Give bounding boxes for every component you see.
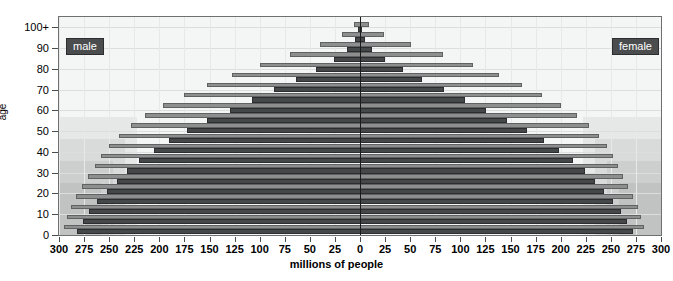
x-axis-tick (310, 237, 311, 242)
x-axis-tick-label: 125 (225, 243, 243, 255)
x-axis-tick-label: 200 (551, 243, 569, 255)
y-axis-tick (52, 173, 58, 174)
x-axis-tick (84, 237, 85, 242)
bar-dark (274, 87, 445, 92)
x-axis-tick-label: 50 (404, 243, 416, 255)
bar-dark (139, 158, 572, 163)
y-axis-tick (52, 152, 58, 153)
x-axis-tick-label: 25 (379, 243, 391, 255)
zero-axis-line (360, 17, 361, 235)
bar-dark (296, 77, 422, 82)
x-axis-title: millions of people (0, 258, 673, 270)
bar-dark (89, 209, 621, 214)
x-axis-tick (210, 237, 211, 242)
x-axis-tick-label: 275 (627, 243, 645, 255)
x-axis-tick (360, 237, 361, 242)
bar-dark (77, 229, 633, 234)
legend-female: female (612, 38, 659, 55)
x-axis-tick (460, 237, 461, 242)
x-axis-tick-label: 0 (357, 243, 363, 255)
bar-dark (230, 108, 487, 113)
x-axis-tick (134, 237, 135, 242)
y-axis-tick-label: 50 (37, 126, 49, 136)
y-axis-tick (52, 193, 58, 194)
y-axis-tick-label: 70 (37, 85, 49, 95)
bar-dark (117, 179, 595, 184)
legend-male: male (66, 38, 104, 55)
y-axis-tick (52, 110, 58, 111)
x-axis-tick (661, 237, 662, 242)
y-axis-tick-label: 30 (37, 168, 49, 178)
x-axis-tick-label: 300 (652, 243, 670, 255)
x-axis-tick-label: 25 (329, 243, 341, 255)
y-axis-tick-label: 40 (37, 147, 49, 157)
x-axis-tick (109, 237, 110, 242)
y-axis-tick-label: 60 (37, 105, 49, 115)
x-axis-tick (611, 237, 612, 242)
y-axis-tick (52, 214, 58, 215)
x-axis-tick-label: 125 (476, 243, 494, 255)
y-axis-tick-label: 80 (37, 64, 49, 74)
x-axis-tick (260, 237, 261, 242)
y-axis-tick-label: 20 (37, 188, 49, 198)
plot-area (58, 16, 662, 236)
x-axis-tick-label: 300 (50, 243, 68, 255)
y-axis-tick-label: 10 (37, 209, 49, 219)
x-axis-tick-label: 100 (451, 243, 469, 255)
x-axis-tick-label: 150 (200, 243, 218, 255)
x-axis-tick (435, 237, 436, 242)
bar-dark (169, 138, 543, 143)
y-axis-tick (52, 27, 58, 28)
gridline (59, 235, 661, 236)
x-axis-tick-label: 150 (501, 243, 519, 255)
x-axis-tick (184, 237, 185, 242)
x-axis-tick (586, 237, 587, 242)
population-pyramid-chart: male female 0102030405060708090100+ 3002… (0, 0, 673, 281)
x-axis-tick-label: 100 (250, 243, 268, 255)
x-axis-tick-label: 50 (304, 243, 316, 255)
bar-dark (252, 97, 466, 102)
vertical-gridline (661, 17, 662, 235)
x-axis-tick-label: 225 (577, 243, 595, 255)
y-axis-tick (52, 131, 58, 132)
x-axis-tick-label: 275 (75, 243, 93, 255)
bar-dark (83, 219, 627, 224)
x-axis-tick (536, 237, 537, 242)
y-axis-tick-label: 90 (37, 43, 49, 53)
x-axis-tick-label: 175 (526, 243, 544, 255)
y-axis-tick (52, 48, 58, 49)
bar-dark (107, 189, 604, 194)
y-axis-tick (52, 69, 58, 70)
bar-dark (97, 199, 613, 204)
x-axis-tick-label: 75 (279, 243, 291, 255)
y-axis-tick-label: 100+ (24, 22, 49, 32)
x-axis-tick (511, 237, 512, 242)
x-axis-tick (410, 237, 411, 242)
bar-dark (207, 118, 507, 123)
x-axis-tick-label: 250 (602, 243, 620, 255)
y-axis-tick (52, 235, 58, 236)
x-axis-tick (561, 237, 562, 242)
bar-dark (127, 168, 585, 173)
y-axis-tick-label: 0 (43, 230, 49, 240)
y-axis-tick (52, 90, 58, 91)
x-axis-tick-label: 75 (429, 243, 441, 255)
y-axis: 0102030405060708090100+ (0, 16, 58, 236)
x-axis-tick (159, 237, 160, 242)
y-axis-title: age (0, 104, 8, 121)
bar-dark (187, 128, 526, 133)
x-axis-tick-label: 200 (150, 243, 168, 255)
x-axis-tick-label: 225 (125, 243, 143, 255)
x-axis-tick (59, 237, 60, 242)
x-axis-tick (485, 237, 486, 242)
x-axis-tick (636, 237, 637, 242)
x-axis-tick (385, 237, 386, 242)
x-axis-tick (235, 237, 236, 242)
x-axis-tick-label: 175 (175, 243, 193, 255)
x-axis-tick (285, 237, 286, 242)
bar-dark (154, 148, 558, 153)
x-axis-tick-label: 250 (100, 243, 118, 255)
x-axis-tick (335, 237, 336, 242)
